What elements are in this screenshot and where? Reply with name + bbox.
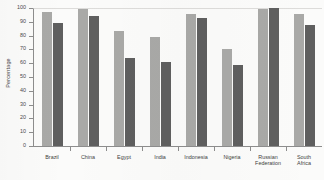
x-axis-tick-mark: [34, 147, 70, 151]
y-axis-tick-label: 70: [20, 45, 26, 51]
bar: [305, 25, 315, 146]
x-axis-category-label: Nigeria: [214, 154, 250, 178]
bar-chart: Percentage 1009080706050403020100 Brazil…: [0, 0, 324, 180]
bar-group: [214, 8, 250, 146]
y-axis-tick-label: 90: [20, 18, 26, 24]
bar: [233, 65, 243, 146]
y-axis-tick-mark: [29, 36, 33, 37]
bar-group: [34, 8, 70, 146]
y-axis-tick-label: 50: [20, 73, 26, 79]
bar: [42, 12, 52, 146]
bar-group: [106, 8, 142, 146]
x-axis-tick-mark: [214, 147, 250, 151]
bar-group: [142, 8, 178, 146]
y-axis-tick-mark: [29, 22, 33, 23]
x-axis-category-label: Brazil: [34, 154, 70, 178]
y-axis-tick-mark: [29, 77, 33, 78]
bar: [294, 14, 304, 146]
x-axis-tick-mark: [250, 147, 286, 151]
bar: [197, 18, 207, 146]
y-axis-title-text: Percentage: [5, 58, 11, 88]
bar: [269, 8, 279, 146]
y-axis-tick-mark: [29, 132, 33, 133]
y-axis-tick-mark: [29, 63, 33, 64]
y-axis-tick-label: 10: [20, 128, 26, 134]
bar-group: [178, 8, 214, 146]
x-axis-category-label: RussianFederation: [250, 154, 286, 178]
x-axis-tick-mark: [106, 147, 142, 151]
y-axis-tick-label: 0: [23, 142, 26, 148]
x-axis-ticks: [34, 147, 322, 151]
y-axis-tick-mark: [29, 8, 33, 9]
y-axis-tick-mark: [29, 118, 33, 119]
bar: [161, 62, 171, 146]
y-axis-tick-mark: [29, 49, 33, 50]
y-axis-tick-label: 40: [20, 87, 26, 93]
x-axis-category-label: Egypt: [106, 154, 142, 178]
x-axis-tick-mark: [178, 147, 214, 151]
x-axis-category-label: SouthAfrica: [286, 154, 322, 178]
bar: [186, 14, 196, 146]
bar: [53, 23, 63, 146]
y-axis-tick-mark: [29, 105, 33, 106]
x-axis-category-label: Indonesia: [178, 154, 214, 178]
x-axis-tick-mark: [142, 147, 178, 151]
bar-groups: [34, 8, 322, 146]
x-axis-tick-mark: [70, 147, 106, 151]
bar: [89, 16, 99, 146]
x-axis-category-label: India: [142, 154, 178, 178]
y-axis-title: Percentage: [1, 0, 15, 146]
bar-group: [286, 8, 322, 146]
x-axis-labels: BrazilChinaEgyptIndiaIndonesiaNigeriaRus…: [34, 154, 322, 178]
bar: [222, 49, 232, 146]
bar: [125, 58, 135, 146]
y-axis-tick-label: 80: [20, 32, 26, 38]
bar: [258, 9, 268, 146]
y-axis-tick-mark: [29, 91, 33, 92]
x-axis-tick-mark: [286, 147, 322, 151]
y-axis-tick-label: 20: [20, 114, 26, 120]
y-axis-tick-label: 60: [20, 59, 26, 65]
x-axis-category-label: China: [70, 154, 106, 178]
bar-group: [70, 8, 106, 146]
bar: [114, 31, 124, 146]
bar: [150, 37, 160, 146]
bar-group: [250, 8, 286, 146]
bar: [78, 9, 88, 146]
y-axis-tick-label: 100: [17, 4, 26, 10]
y-axis-tick-label: 30: [20, 101, 26, 107]
